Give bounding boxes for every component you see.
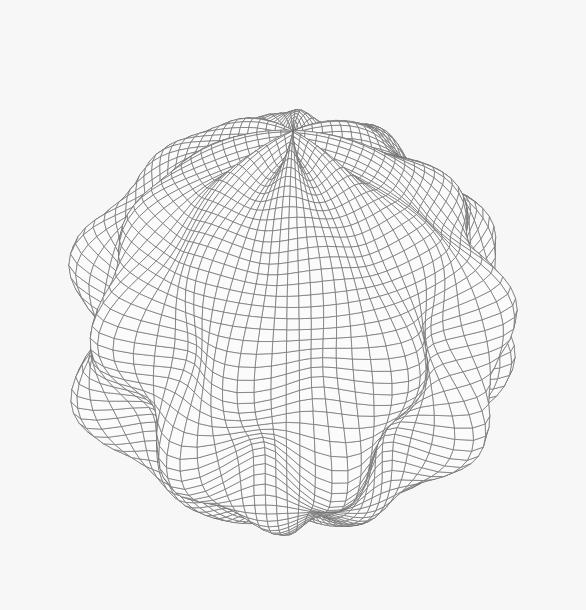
wireframe-mesh [0,0,586,610]
render-canvas [0,0,586,610]
